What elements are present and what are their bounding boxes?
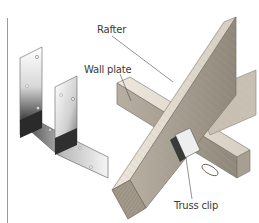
illustration xyxy=(0,0,259,223)
label-wall-plate: Wall plate xyxy=(84,65,131,75)
label-rafter: Rafter xyxy=(97,25,126,35)
label-truss-clip: Truss clip xyxy=(174,201,218,211)
leader-line-truss-clip xyxy=(186,158,192,199)
leader-line-rafter xyxy=(112,36,173,82)
rafter-beam xyxy=(112,17,236,219)
